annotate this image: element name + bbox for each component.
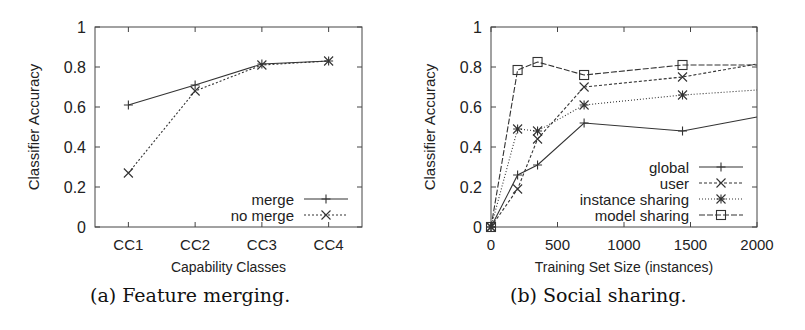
- x-tick-label: 500: [545, 236, 570, 253]
- series-line: [128, 61, 328, 173]
- x-axis-label: Capability Classes: [171, 259, 286, 275]
- y-tick-label: 0.6: [64, 99, 86, 116]
- x-marker-icon: [124, 169, 133, 178]
- series-line: [128, 61, 328, 105]
- star-marker-icon: [513, 125, 522, 134]
- chart-feature-merging: 00.20.40.60.81CC1CC2CC3CC4Capability Cla…: [0, 0, 400, 330]
- x-marker-icon: [533, 135, 542, 144]
- legend-label: instance sharing: [580, 191, 689, 208]
- plus-marker-icon: [257, 60, 266, 69]
- x-tick-label: CC1: [113, 236, 143, 253]
- caption-social-sharing: (b) Social sharing.: [510, 284, 687, 306]
- x-axis-label: Training Set Size (instances): [535, 259, 713, 275]
- x-marker-icon: [513, 185, 522, 194]
- plus-marker-icon: [717, 163, 726, 172]
- legend-label: user: [660, 175, 689, 192]
- x-tick-label: 2000: [740, 236, 773, 253]
- x-tick-label: 0: [487, 236, 495, 253]
- star-marker-icon: [678, 91, 687, 100]
- x-tick-label: CC2: [180, 236, 210, 253]
- y-tick-label: 0: [473, 219, 482, 236]
- x-tick-label: 1500: [674, 236, 707, 253]
- plus-marker-icon: [678, 127, 687, 136]
- legend: mergeno merge: [231, 191, 348, 224]
- legend-label: no merge: [231, 207, 294, 224]
- y-axis: 00.20.40.60.81: [64, 19, 362, 236]
- plus-marker-icon: [322, 195, 331, 204]
- legend-label: global: [649, 159, 689, 176]
- legend-label: merge: [251, 191, 294, 208]
- star-marker-icon: [580, 101, 589, 110]
- chart-social-sharing: 00.20.40.60.810500100015002000Training S…: [400, 0, 805, 330]
- star-marker-icon: [533, 127, 542, 136]
- y-tick-label: 1: [473, 19, 482, 36]
- y-tick-label: 0.4: [460, 139, 482, 156]
- y-axis-label: Classifier Accuracy: [421, 63, 438, 190]
- y-axis-label: Classifier Accuracy: [25, 63, 42, 190]
- plot-frame: [95, 27, 362, 227]
- figure-social-sharing: 00.20.40.60.810500100015002000Training S…: [400, 0, 805, 330]
- y-tick-label: 0.6: [460, 99, 482, 116]
- plus-marker-icon: [124, 101, 133, 110]
- x-tick-label: CC3: [247, 236, 277, 253]
- x-tick-label: 1000: [607, 236, 640, 253]
- y-tick-label: 0.8: [460, 59, 482, 76]
- y-tick-label: 0.2: [460, 179, 482, 196]
- y-tick-label: 0: [77, 219, 86, 236]
- x-tick-label: CC4: [314, 236, 344, 253]
- y-tick-label: 0.2: [64, 179, 86, 196]
- plus-marker-icon: [513, 171, 522, 180]
- star-marker-icon: [717, 195, 726, 204]
- series-merge: [124, 57, 333, 110]
- x-marker-icon: [580, 83, 589, 92]
- x-axis: CC1CC2CC3CC4: [113, 27, 343, 253]
- y-tick-label: 1: [77, 19, 86, 36]
- y-tick-label: 0.8: [64, 59, 86, 76]
- figure-feature-merging: 00.20.40.60.81CC1CC2CC3CC4Capability Cla…: [0, 0, 400, 330]
- legend: globaluserinstance sharingmodel sharing: [580, 159, 743, 224]
- caption-feature-merging: (a) Feature merging.: [90, 284, 290, 306]
- y-tick-label: 0.4: [64, 139, 86, 156]
- legend-label: model sharing: [595, 207, 689, 224]
